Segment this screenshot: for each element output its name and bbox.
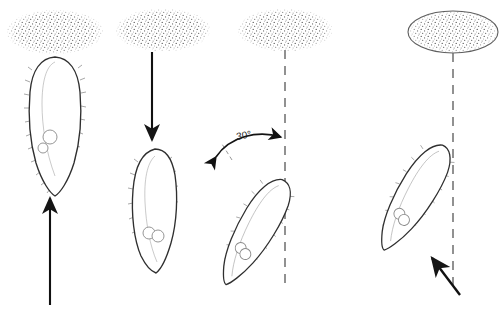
organelle-1a xyxy=(43,130,57,144)
ciliated-cell-3 xyxy=(205,169,301,295)
cell-axis-guide-3 xyxy=(222,144,232,160)
panel-1 xyxy=(7,10,103,305)
organelle-2b xyxy=(152,230,164,242)
substrate-ellipse-2 xyxy=(116,9,210,51)
substrate-ellipse-4 xyxy=(408,11,498,53)
substrate-ellipse-1 xyxy=(7,10,103,54)
ciliated-cell-2 xyxy=(128,149,178,273)
ciliated-cell-1 xyxy=(24,57,86,196)
panel-3: 30° xyxy=(205,9,332,294)
panel-4 xyxy=(363,11,498,295)
figure-canvas: 30° xyxy=(0,0,501,313)
ciliated-cell-4 xyxy=(363,134,461,260)
diagonal-arrow xyxy=(432,258,460,295)
panel-2 xyxy=(116,9,210,273)
angle-label: 30° xyxy=(235,128,252,142)
substrate-ellipse-3 xyxy=(238,9,332,51)
organelle-1b xyxy=(38,143,48,153)
